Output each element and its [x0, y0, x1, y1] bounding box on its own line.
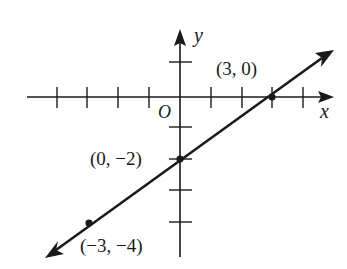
x-axis-label: x	[319, 100, 329, 122]
graph-canvas: y x O (3, 0) (0, −2) (−3, −4)	[0, 0, 347, 269]
line-arrow-upper-icon	[315, 50, 334, 67]
line-arrow-lower-icon	[45, 241, 64, 258]
point-0-neg2	[176, 155, 183, 162]
point-3-0	[268, 93, 275, 100]
point-label-3-0: (3, 0)	[216, 58, 257, 80]
origin-label: O	[158, 102, 171, 122]
point-neg3-neg4	[85, 219, 92, 226]
y-axis-label: y	[192, 24, 203, 47]
coordinate-graph: y x O (3, 0) (0, −2) (−3, −4)	[0, 0, 347, 269]
point-label-0-neg2: (0, −2)	[90, 148, 142, 170]
point-label-neg3-neg4: (−3, −4)	[80, 235, 143, 257]
